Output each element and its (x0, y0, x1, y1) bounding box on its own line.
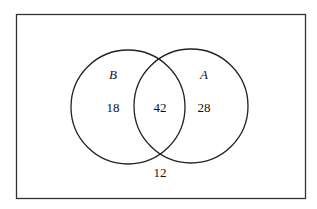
venn-diagram: B A 18 42 28 12 (0, 0, 317, 209)
set-b-label: B (109, 67, 117, 82)
outside-count: 12 (154, 165, 167, 180)
a-only-count: 28 (198, 100, 211, 115)
intersection-count: 42 (154, 100, 167, 115)
set-a-circle (134, 49, 248, 163)
set-b-circle (71, 50, 185, 164)
b-only-count: 18 (107, 100, 120, 115)
set-a-label: A (199, 67, 208, 82)
